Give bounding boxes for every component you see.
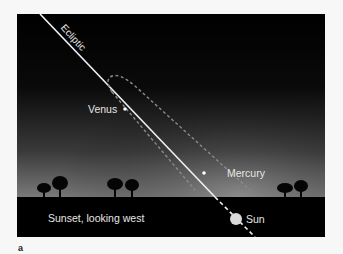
sun-label: Sun — [246, 213, 265, 225]
sky-diagram-panel: Ecliptic Venus Mercury Sun Sunset, looki… — [17, 14, 325, 237]
caption: Sunset, looking west — [48, 212, 144, 224]
mercury-dot — [202, 171, 206, 175]
sunset-glow — [17, 14, 325, 197]
panel-letter: a — [18, 243, 23, 253]
venus-dot — [123, 107, 127, 111]
venus-label: Venus — [88, 103, 117, 115]
mercury-label: Mercury — [227, 167, 265, 179]
sky-scene — [17, 14, 325, 237]
sun-disk — [230, 213, 242, 225]
